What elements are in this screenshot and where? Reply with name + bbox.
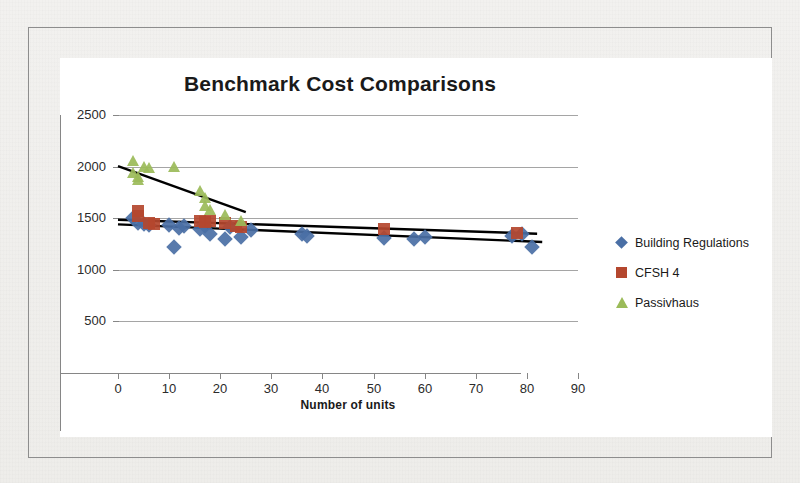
x-axis-line xyxy=(60,373,521,374)
x-axis-tick xyxy=(169,373,170,379)
x-axis-tick xyxy=(476,373,477,379)
plot-area xyxy=(118,115,578,373)
x-axis-tick-label: 90 xyxy=(558,381,598,396)
x-axis-tick-label: 30 xyxy=(251,381,291,396)
legend-label: CFSH 4 xyxy=(635,266,679,280)
diamond-marker-icon xyxy=(616,236,632,250)
x-axis-tick xyxy=(425,373,426,379)
x-axis-tick-label: 0 xyxy=(98,381,138,396)
x-axis-tick-label: 70 xyxy=(456,381,496,396)
data-point-square xyxy=(511,227,523,239)
slide-page-background: Benchmark Cost Comparisons 5001000150020… xyxy=(0,0,800,483)
x-axis-tick-label: 20 xyxy=(200,381,240,396)
triangle-marker-icon xyxy=(616,296,632,310)
y-axis-tick-label: 1500 xyxy=(56,210,106,225)
chart-title: Benchmark Cost Comparisons xyxy=(60,72,620,96)
data-point-triangle xyxy=(132,174,144,185)
x-axis-tick xyxy=(220,373,221,379)
y-axis-tick-label: 2500 xyxy=(56,107,106,122)
square-marker-icon xyxy=(616,266,632,280)
data-point-triangle xyxy=(235,215,247,226)
x-axis-title: Number of units xyxy=(118,398,578,412)
x-axis-tick-label: 40 xyxy=(302,381,342,396)
data-point-triangle xyxy=(143,162,155,173)
x-axis-tick-label: 80 xyxy=(507,381,547,396)
data-point-square xyxy=(378,223,390,235)
x-axis-tick-label: 50 xyxy=(354,381,394,396)
y-axis-tick-label: 500 xyxy=(56,313,106,328)
data-point-triangle xyxy=(219,209,231,220)
x-axis-tick xyxy=(578,373,579,379)
data-point-triangle xyxy=(204,204,216,215)
legend-item-building-regulations[interactable]: Building Regulations xyxy=(616,228,768,258)
x-axis-tick xyxy=(322,373,323,379)
data-point-square xyxy=(148,218,160,230)
x-axis-tick xyxy=(271,373,272,379)
y-axis-tick-label: 1000 xyxy=(56,262,106,277)
y-axis-tick-label: 2000 xyxy=(56,159,106,174)
legend-label: Building Regulations xyxy=(635,236,749,250)
x-axis-tick xyxy=(527,373,528,379)
x-axis-tick xyxy=(374,373,375,379)
trendlines-group xyxy=(118,115,578,373)
chart-legend: Building Regulations CFSH 4 Passivhaus xyxy=(616,228,768,318)
legend-item-passivhaus[interactable]: Passivhaus xyxy=(616,288,768,318)
x-axis-tick-label: 60 xyxy=(405,381,445,396)
chart-container: Benchmark Cost Comparisons 5001000150020… xyxy=(60,58,772,437)
legend-label: Passivhaus xyxy=(635,296,699,310)
x-axis-tick-label: 10 xyxy=(149,381,189,396)
x-axis-tick xyxy=(118,373,119,379)
data-point-square xyxy=(204,215,216,227)
data-point-triangle xyxy=(168,161,180,172)
legend-item-cfsh-4[interactable]: CFSH 4 xyxy=(616,258,768,288)
